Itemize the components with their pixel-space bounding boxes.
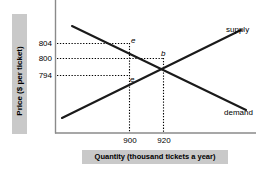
y-tick-label-800: 800	[30, 54, 52, 63]
point-label-e-lower: e	[130, 75, 134, 84]
point-label-e-upper: e	[131, 36, 135, 45]
supply-curve-label: supply	[226, 25, 249, 34]
y-tick-label-804: 804	[30, 39, 52, 48]
x-tick-label-900: 900	[117, 136, 143, 145]
demand-curve	[72, 26, 246, 110]
supply-curve	[62, 30, 241, 118]
demand-curve-label: demand	[224, 108, 253, 117]
point-label-b-equilibrium: b	[161, 49, 165, 58]
y-tick-label-794: 794	[30, 71, 52, 80]
x-tick-label-920: 920	[151, 136, 177, 145]
supply-demand-chart: Price ($ per ticket) Quantity (thousand …	[0, 0, 277, 170]
